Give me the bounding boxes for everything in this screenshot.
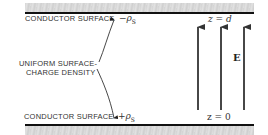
pointer-to-bottom-icon [97, 69, 114, 118]
field-arrows [198, 27, 244, 110]
pointer-to-top-icon [99, 20, 114, 62]
diagram-lines [0, 0, 268, 135]
pointer-lines [97, 20, 114, 118]
